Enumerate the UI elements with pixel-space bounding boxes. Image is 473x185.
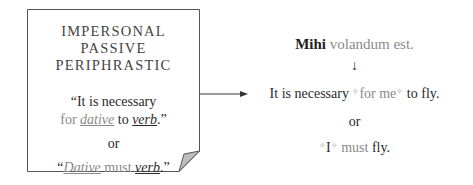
latin-rest: volandum est. [326, 36, 414, 52]
translation-must: ✧I✧ must fly. [236, 140, 473, 156]
quote-text: .” [157, 112, 167, 127]
heading-line: PERIPHRASTIC [27, 57, 200, 74]
translation-necessary: It is necessary ✧for me✧ to fly. [236, 86, 473, 102]
translation-text: must [338, 140, 369, 155]
translation-text: to fly. [403, 86, 439, 101]
latin-sentence: Mihi volandum est. [236, 36, 473, 53]
quote-must: “Dative must verb.” [27, 160, 200, 176]
translation-text: It is necessary [270, 86, 353, 101]
star-icon: ✧ [331, 141, 338, 150]
dative-term: Dative [64, 160, 101, 175]
quote-necessary: “It is necessary for dative to verb.” [27, 93, 200, 129]
card-heading: IMPERSONAL PASSIVE PERIPHRASTIC [27, 23, 200, 74]
quote-text: must [101, 160, 135, 175]
dative-term: dative [80, 112, 114, 127]
translation-for-me: for me [359, 86, 396, 101]
heading-line: IMPERSONAL [27, 23, 200, 40]
quote-text: for [60, 112, 80, 127]
or-label: or [27, 136, 200, 152]
or-label: or [236, 114, 473, 130]
quote-text: to [114, 112, 132, 127]
translation-text: fly. [368, 140, 390, 155]
verb-term: verb [135, 160, 160, 175]
heading-line: PASSIVE [27, 40, 200, 57]
quote-text: “It is necessary [27, 93, 200, 111]
arrow-down-icon: ↓ [236, 58, 473, 74]
note-card: IMPERSONAL PASSIVE PERIPHRASTIC “It is n… [27, 9, 200, 172]
quote-text: .” [160, 160, 170, 175]
verb-term: verb [132, 112, 157, 127]
latin-dative: Mihi [295, 36, 326, 52]
star-icon: ✧ [319, 141, 326, 150]
